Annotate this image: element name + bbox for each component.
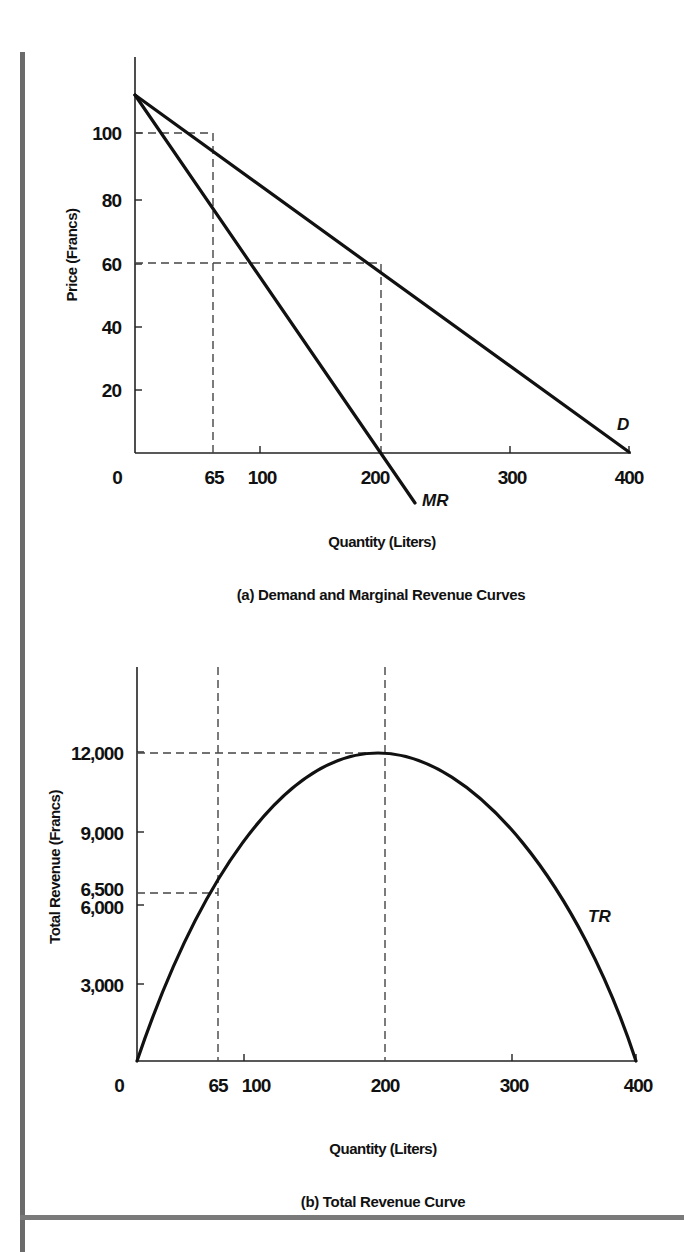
panel-b-x-axis-title: Quantity (Liters)	[329, 1140, 437, 1157]
panel-a-y-label-80: 80	[102, 190, 122, 211]
panel-b-x-label-300: 300	[500, 1075, 529, 1096]
demand-curve	[135, 95, 629, 452]
panel-a-x-label-300: 300	[498, 467, 527, 488]
panel-b-caption: (b) Total Revenue Curve	[301, 1193, 466, 1210]
tr-curve-label: TR	[588, 907, 611, 926]
panel-b-y-label-9000: 9,000	[80, 823, 123, 844]
panel-a-guide-65-100	[135, 133, 213, 453]
marginal-revenue-curve	[135, 95, 415, 503]
mr-curve-label: MR	[422, 491, 449, 510]
panel-b-x-label-0: 0	[114, 1075, 124, 1096]
panel-a-guide-200-60	[135, 263, 381, 453]
panel-b-y-label-12000: 12,000	[71, 743, 124, 764]
panel-b-y-axis-title: Total Revenue (Francs)	[46, 790, 63, 944]
panel-b-y-label-6000: 6,000	[80, 897, 123, 918]
panel-a-y-label-20: 20	[102, 380, 122, 401]
panel-b-y-label-3000: 3,000	[80, 975, 123, 996]
demand-curve-label: D	[617, 415, 629, 434]
panel-b-x-label-200: 200	[371, 1075, 400, 1096]
panel-a-x-axis-title: Quantity (Liters)	[328, 533, 436, 550]
panel-a-x-label-200: 200	[361, 467, 390, 488]
panel-b-x-label-100: 100	[242, 1075, 271, 1096]
panel-b-x-label-400: 400	[624, 1075, 653, 1096]
panel-a-y-label-40: 40	[102, 317, 122, 338]
panel-a-x-label-400: 400	[615, 467, 644, 488]
panel-b-x-label-65: 65	[208, 1075, 229, 1096]
panel-a-caption: (a) Demand and Marginal Revenue Curves	[237, 586, 526, 603]
panel-a-x-label-100: 100	[248, 467, 277, 488]
panel-a-x-label-65: 65	[204, 467, 225, 488]
panel-a-demand-mr: 100 80 60 40 20 0 65 100 200 300 400 D M…	[63, 57, 644, 603]
panel-a-y-axis-title: Price (Francs)	[63, 208, 80, 302]
figure: 100 80 60 40 20 0 65 100 200 300 400 D M…	[0, 0, 684, 1252]
panel-a-y-label-100: 100	[92, 123, 121, 144]
panel-b-total-revenue: 12,000 9,000 6,500 6,000 3,000 0 65 100 …	[46, 667, 653, 1210]
panel-a-x-label-0: 0	[112, 467, 122, 488]
panel-a-y-label-60: 60	[102, 254, 122, 275]
total-revenue-curve	[137, 753, 636, 1061]
